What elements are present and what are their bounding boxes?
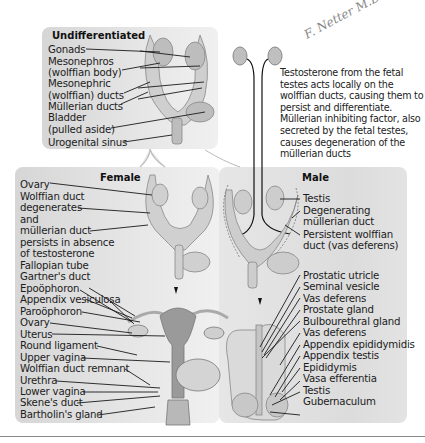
female-lower-illustration	[128, 308, 228, 425]
label-pulled-aside: (pulled aside)	[48, 124, 115, 135]
label-upper-vagina: Upper vagina	[20, 352, 86, 363]
label-prostatic-utricle: Prostatic utricle	[303, 270, 379, 281]
female-title: Female	[100, 172, 141, 183]
undifferentiated-illustration	[145, 35, 214, 144]
label-prostate-gland: Prostate gland	[303, 304, 374, 315]
label-vas-deferens-2: Vas deferens	[303, 327, 366, 338]
label-mullerian-duct: müllerian duct	[20, 225, 91, 236]
label-wolffian-duct: Wolffian duct	[20, 191, 84, 202]
male-lower-illustration	[227, 324, 289, 420]
label-ovary: Ovary	[20, 179, 50, 190]
label-skenes-duct: Skene's duct	[20, 397, 82, 408]
label-mesonephros: Mesonephros	[48, 56, 114, 67]
label-vas-deferens-1: Vas deferens	[303, 293, 366, 304]
label-paroophoron: Paroöphoron	[20, 306, 82, 317]
label-degenerating: Degenerating	[303, 205, 370, 216]
label-persistent-wolffian: Persistent wolffian	[303, 229, 393, 240]
bottom-divider	[0, 436, 425, 437]
female-upper-illustration	[146, 175, 214, 279]
label-degenerates: degenerates	[20, 202, 82, 213]
label-mullerian-duct-male: müllerian duct	[303, 216, 374, 227]
label-testis: Testis	[303, 193, 330, 204]
label-bladder: Bladder	[48, 112, 86, 123]
label-wolffian-duct-remnant: Wolffian duct remnant	[20, 363, 129, 374]
label-bartholins-gland: Bartholin's gland	[20, 409, 103, 420]
label-appendix-testis: Appendix testis	[303, 350, 379, 361]
label-uterus: Uterus	[20, 329, 52, 340]
label-appendix-epididymidis: Appendix epididymidis	[303, 339, 415, 350]
label-epoophoron: Epoöphoron	[20, 283, 79, 294]
label-gonads: Gonads	[48, 44, 85, 55]
label-urogenital-sinus: Urogenital sinus	[48, 137, 127, 148]
testosterone-note: Testosterone from the fetal testes acts …	[280, 67, 424, 160]
label-wolffian-body: (wolffian body)	[48, 67, 121, 78]
label-epididymis: Epididymis	[303, 362, 357, 373]
label-lower-vagina: Lower vagina	[20, 386, 86, 397]
label-vas-deferens-duct: duct (vas deferens)	[303, 240, 398, 251]
label-mesonephric: Mesonephric	[48, 78, 111, 89]
label-seminal-vesicle: Seminal vesicle	[303, 281, 379, 292]
label-testis-lower: Testis	[303, 385, 330, 396]
label-gubernaculum: Gubernaculum	[303, 396, 376, 407]
undifferentiated-title: Undifferentiated	[52, 30, 145, 41]
label-appendix-vesiculosa: Appendix vesiculosa	[20, 294, 121, 305]
label-persists: persists in absence	[20, 237, 114, 248]
label-mullerian-ducts: Müllerian ducts	[48, 101, 123, 112]
label-gartners-duct: Gartner's duct	[20, 271, 90, 282]
label-wolffian-ducts: (wolffian) ducts	[48, 90, 124, 101]
label-vasa-efferentia: Vasa efferentia	[303, 373, 377, 384]
label-and: and	[20, 214, 39, 225]
male-title: Male	[302, 172, 329, 183]
label-round-ligament: Round ligament	[20, 340, 98, 351]
label-ovary-lower: Ovary	[20, 317, 50, 328]
label-urethra: Urethra	[20, 375, 57, 386]
label-fallopian-tube: Fallopian tube	[20, 260, 89, 271]
label-bulbourethral-gland: Bulbourethral gland	[303, 316, 400, 327]
label-of-testosterone: of testosterone	[20, 248, 94, 259]
